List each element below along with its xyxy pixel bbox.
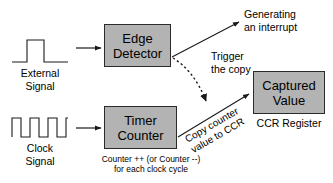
edge-detector-label-line1: Edge bbox=[122, 31, 152, 46]
trigger-the-copy-annotation: Trigger the copy bbox=[211, 50, 251, 75]
timer-counter-box[interactable]: Timer Counter bbox=[104, 106, 177, 149]
trigger-the-copy-line2: the copy bbox=[211, 63, 251, 76]
arrow-trigger-the-copy bbox=[173, 58, 206, 101]
timer-counter-label-line1: Timer bbox=[124, 113, 157, 128]
captured-value-label-line2: Value bbox=[273, 93, 305, 108]
ccr-register-label: CCR Register bbox=[253, 117, 325, 129]
clock-signal-label: Clock Signal bbox=[5, 142, 75, 167]
counter-caption-line2: for each clock cycle bbox=[90, 164, 212, 174]
diagram-canvas: Edge Detector Timer Counter Captured Val… bbox=[0, 0, 333, 183]
clock-signal-waveform bbox=[12, 118, 68, 137]
captured-value-box[interactable]: Captured Value bbox=[253, 71, 325, 114]
external-signal-waveform bbox=[12, 40, 68, 62]
edge-detector-label-line2: Detector bbox=[113, 46, 162, 61]
captured-value-label-line1: Captured bbox=[262, 78, 315, 93]
generating-interrupt-line2: an interrupt bbox=[244, 21, 297, 34]
external-signal-label-line1: External bbox=[5, 67, 75, 80]
edge-detector-box[interactable]: Edge Detector bbox=[104, 24, 171, 67]
clock-signal-label-line2: Signal bbox=[5, 155, 75, 168]
trigger-the-copy-line1: Trigger bbox=[211, 50, 251, 63]
clock-signal-label-line1: Clock bbox=[5, 142, 75, 155]
external-signal-label: External Signal bbox=[5, 67, 75, 92]
generating-interrupt-annotation: Generating an interrupt bbox=[244, 8, 297, 33]
generating-interrupt-line1: Generating bbox=[244, 8, 297, 21]
counter-caption: Counter ++ (or Counter --) for each cloc… bbox=[90, 154, 212, 174]
external-signal-label-line2: Signal bbox=[5, 80, 75, 93]
counter-caption-line1: Counter ++ (or Counter --) bbox=[90, 154, 212, 164]
timer-counter-label-line2: Counter bbox=[117, 128, 163, 143]
